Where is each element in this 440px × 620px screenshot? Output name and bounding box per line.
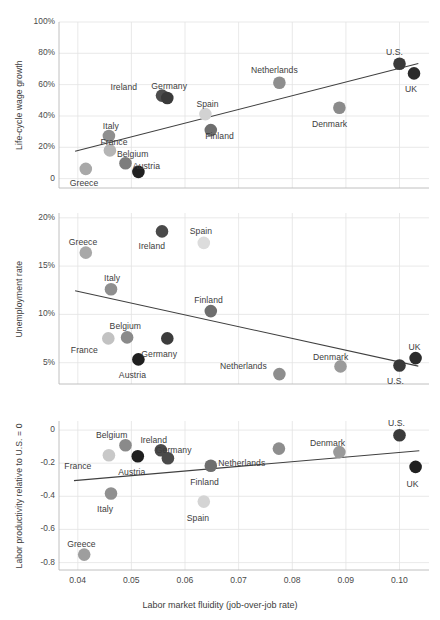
point-label-belgium: Belgium (110, 321, 141, 331)
x-tick-label: 0.09 (337, 575, 354, 585)
point-label-spain: Spain (187, 513, 209, 523)
y-axis-label: Labor productivity relative to U.S. = 0 (14, 423, 24, 568)
y-tick-label: 100% (34, 16, 55, 26)
point-label-us: U.S. (387, 376, 404, 386)
point-label-germany: Germany (156, 445, 192, 455)
data-point-belgium[interactable] (119, 439, 132, 452)
panel-labor-productivity: -0.8-0.6-0.4-0.20Labor productivity rela… (0, 395, 440, 620)
point-label-ireland: Ireland (138, 241, 165, 251)
data-point-uk[interactable] (408, 67, 421, 80)
x-axis-label: Labor market fluidity (job-over-job rate… (0, 600, 440, 610)
y-tick-label: -0.6 (41, 523, 55, 533)
point-label-italy: Italy (104, 273, 120, 283)
point-label-greece: Greece (69, 237, 97, 247)
point-label-greece: Greece (67, 539, 95, 549)
data-point-greece[interactable] (80, 246, 93, 259)
y-tick-label: 10% (38, 308, 55, 318)
y-axis-label: Unemployment rate (14, 260, 24, 337)
data-point-spain[interactable] (198, 495, 211, 508)
point-label-austria: Austria (133, 161, 160, 171)
point-label-italy: Italy (97, 504, 113, 514)
point-label-finland: Finland (205, 131, 234, 141)
point-label-uk: UK (405, 84, 417, 94)
point-label-austria: Austria (119, 370, 146, 380)
data-point-belgium[interactable] (121, 331, 134, 344)
data-point-us[interactable] (393, 58, 406, 71)
y-tick-label: -0.2 (41, 457, 55, 467)
point-label-us: U.S. (386, 47, 403, 57)
data-point-denmark[interactable] (333, 102, 346, 115)
data-point-ireland[interactable] (156, 225, 169, 238)
y-tick-label: 20% (38, 141, 55, 151)
data-point-spain[interactable] (199, 108, 212, 121)
data-point-netherlands[interactable] (273, 77, 286, 90)
panel-unemployment-rate: 5%10%15%20%Unemployment rateGreeceItalyF… (0, 195, 440, 395)
point-label-netherlands: Netherlands (251, 65, 298, 75)
point-label-greece: Greece (70, 178, 98, 188)
point-label-ireland: Ireland (110, 82, 137, 92)
y-tick-label: 5% (43, 357, 55, 367)
y-tick-label: 80% (38, 47, 55, 57)
data-point-netherlands[interactable] (273, 442, 286, 455)
y-tick-label: 0 (50, 424, 55, 434)
point-label-belgium: Belgium (96, 430, 127, 440)
data-point-france[interactable] (102, 332, 115, 345)
point-label-denmark: Denmark (313, 352, 348, 362)
y-tick-label: 15% (38, 260, 55, 270)
point-label-finland: Finland (190, 477, 219, 487)
data-point-spain[interactable] (198, 237, 211, 250)
point-label-us: U.S. (388, 418, 405, 428)
data-point-germany[interactable] (161, 332, 174, 345)
x-tick-label: 0.06 (177, 575, 194, 585)
y-tick-label: -0.4 (41, 490, 55, 500)
x-tick-label: 0.10 (391, 575, 408, 585)
y-tick-label: -0.8 (41, 557, 55, 567)
data-point-us[interactable] (393, 359, 406, 372)
data-point-greece[interactable] (78, 548, 91, 561)
data-point-italy[interactable] (105, 283, 118, 296)
y-tick-label: 20% (38, 212, 55, 222)
point-label-netherlands: Netherlands (218, 458, 265, 468)
point-label-france: France (71, 345, 98, 355)
panel-life-cycle-wage-growth: 020%40%60%80%100%Life-cycle wage growthG… (0, 0, 440, 195)
data-point-finland[interactable] (205, 459, 218, 472)
y-tick-label: 60% (38, 79, 55, 89)
point-label-denmark: Denmark (312, 119, 347, 129)
data-point-austria[interactable] (132, 450, 145, 463)
plot-canvas (0, 0, 440, 195)
x-tick-label: 0.05 (123, 575, 140, 585)
x-tick-label: 0.04 (69, 575, 86, 585)
data-point-netherlands[interactable] (273, 368, 286, 381)
y-axis-label: Life-cycle wage growth (14, 60, 24, 150)
point-label-italy: Italy (103, 121, 119, 131)
point-label-france: France (100, 137, 127, 147)
y-tick-label: 40% (38, 110, 55, 120)
point-label-netherlands: Netherlands (220, 361, 267, 371)
point-label-germany: Germany (151, 81, 187, 91)
data-point-italy[interactable] (105, 487, 118, 500)
point-label-belgium: Belgium (117, 149, 148, 159)
point-label-spain: Spain (190, 226, 212, 236)
y-tick-label: 0 (50, 173, 55, 183)
point-label-spain: Spain (196, 99, 218, 109)
data-point-germany[interactable] (161, 92, 174, 105)
plot-canvas (0, 395, 440, 620)
data-point-uk[interactable] (409, 461, 422, 474)
data-point-greece[interactable] (80, 163, 93, 176)
data-point-finland[interactable] (205, 305, 218, 318)
data-point-france[interactable] (103, 449, 116, 462)
point-label-uk: UK (409, 342, 421, 352)
point-label-germany: Germany (141, 349, 177, 359)
x-tick-label: 0.07 (230, 575, 247, 585)
x-tick-label: 0.08 (284, 575, 301, 585)
point-label-france: France (64, 461, 91, 471)
point-label-denmark: Denmark (310, 438, 345, 448)
data-point-us[interactable] (393, 429, 406, 442)
point-label-uk: UK (407, 479, 419, 489)
point-label-austria: Austria (118, 467, 145, 477)
point-label-finland: Finland (194, 295, 223, 305)
data-point-uk[interactable] (409, 352, 422, 365)
scatter-figure: 020%40%60%80%100%Life-cycle wage growthG… (0, 0, 440, 620)
point-label-ireland: Ireland (140, 435, 167, 445)
